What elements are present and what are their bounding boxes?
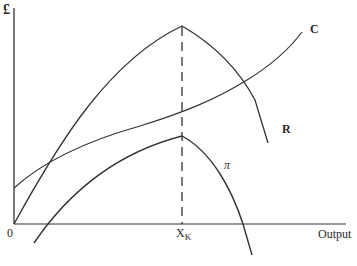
curve-r xyxy=(14,26,268,224)
curve-c xyxy=(14,32,302,188)
xk-label-sub: K xyxy=(185,232,192,242)
origin-label: 0 xyxy=(7,227,13,239)
profit-maximisation-chart: £ 0 Output XK C R π xyxy=(0,0,357,266)
curve-pi-label: π xyxy=(224,159,230,171)
xk-label: XK xyxy=(176,227,191,242)
xk-label-main: X xyxy=(176,226,185,240)
x-axis-label: Output xyxy=(318,228,351,240)
curve-r-label: R xyxy=(282,123,291,135)
curve-c-label: C xyxy=(310,23,319,35)
y-axis-label: £ xyxy=(3,3,10,17)
